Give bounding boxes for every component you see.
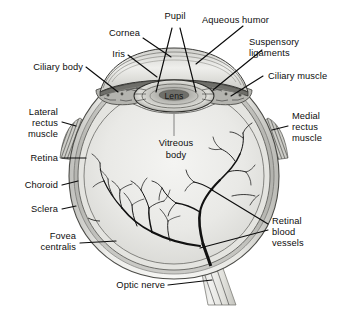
label-choroid: Choroid bbox=[25, 180, 58, 190]
label-aqueous-humor: Aqueous humor bbox=[202, 15, 269, 25]
label-lateral-rectus-line3: muscle bbox=[28, 129, 58, 139]
label-ciliary-muscle: Ciliary muscle bbox=[268, 71, 327, 81]
label-ciliary-body: Ciliary body bbox=[33, 62, 83, 72]
label-vitreous-line2: body bbox=[166, 150, 187, 160]
label-lateral-rectus-line1: Lateral bbox=[29, 107, 58, 117]
label-suspensory-ligaments-line1: Suspensory bbox=[249, 37, 299, 47]
label-medial-rectus-line3: muscle bbox=[292, 133, 322, 143]
label-suspensory-ligaments-line2: ligaments bbox=[249, 48, 290, 58]
label-lens: Lens bbox=[164, 91, 183, 101]
label-medial-rectus-line2: rectus bbox=[292, 122, 318, 132]
label-sclera: Sclera bbox=[31, 204, 59, 214]
label-cornea: Cornea bbox=[109, 28, 141, 38]
eye-diagram-canvas: Pupil Aqueous humor Cornea Suspensory li… bbox=[0, 0, 349, 318]
label-retinal-vessels-line2: blood bbox=[272, 227, 295, 237]
label-medial-rectus-line1: Medial bbox=[292, 111, 320, 121]
label-pupil: Pupil bbox=[164, 11, 185, 21]
label-lateral-rectus-line2: rectus bbox=[32, 118, 58, 128]
label-fovea-line1: Fovea bbox=[50, 231, 77, 241]
label-fovea-line2: centralis bbox=[40, 242, 76, 252]
label-optic-nerve: Optic nerve bbox=[116, 280, 165, 290]
label-retina: Retina bbox=[31, 153, 59, 163]
label-retinal-vessels-line3: vessels bbox=[272, 238, 304, 248]
eye-anatomy-figure: Pupil Aqueous humor Cornea Suspensory li… bbox=[0, 0, 349, 318]
label-retinal-vessels-line1: Retinal bbox=[272, 216, 302, 226]
label-iris: Iris bbox=[112, 49, 125, 59]
label-vitreous-line1: Vitreous bbox=[159, 138, 194, 148]
